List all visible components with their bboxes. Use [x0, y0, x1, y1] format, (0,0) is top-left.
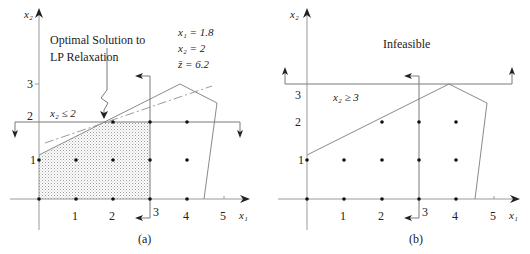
branch-and-bound-diagram: x₂ x₁ 1 2 3 4 5 1 2 3 x₂ ≤ 2 Optimal Sol… [0, 0, 530, 254]
x-axis-label: x₁ [238, 209, 248, 221]
panel-b: x₂ x₁ 1 2 3 4 5 1 2 3 x₂ ≥ 3 Infeasible … [278, 8, 520, 246]
y-tick-2: 2 [295, 115, 301, 129]
x-tick-5: 5 [220, 209, 226, 223]
x-tick-1: 1 [72, 209, 78, 223]
y-tick-3: 3 [27, 77, 33, 91]
y-axis-label: x₂ [289, 8, 299, 20]
solution-x2: x₂ = 2 [177, 42, 206, 54]
solution-z: z̄ = 6.2 [177, 58, 209, 70]
x-tick-4: 4 [183, 209, 189, 223]
annotation-line-2: LP Relaxation [50, 50, 119, 64]
x-tick-4: 4 [452, 209, 458, 223]
lattice-points [305, 120, 458, 201]
panel-a: x₂ x₁ 1 2 3 4 5 1 2 3 x₂ ≤ 2 Optimal Sol… [10, 8, 250, 246]
x-tick-3: 3 [422, 205, 428, 219]
y-axis-label: x₂ [23, 8, 33, 20]
y-tick-2: 2 [27, 109, 33, 123]
solution-x1: x₁ = 1.8 [177, 26, 214, 38]
x-tick-5: 5 [490, 209, 496, 223]
caption-b: (b) [409, 232, 423, 246]
annotation-line-1: Optimal Solution to [50, 33, 145, 47]
x-tick-1: 1 [340, 209, 346, 223]
x-tick-2: 2 [378, 209, 384, 223]
y-tick-3: 3 [295, 88, 301, 102]
x-tick-2: 2 [109, 209, 115, 223]
feasible-region-shaded [39, 122, 150, 199]
x-axis-label: x₁ [508, 209, 518, 221]
y-tick-1: 1 [30, 153, 36, 167]
y-tick-1: 1 [298, 153, 304, 167]
x-tick-3: 3 [153, 205, 159, 219]
caption-a: (a) [138, 232, 151, 246]
constraint-label: x₂ ≥ 3 [332, 91, 359, 103]
constraint-label: x₂ ≤ 2 [49, 107, 76, 119]
infeasible-label: Infeasible [383, 37, 430, 51]
